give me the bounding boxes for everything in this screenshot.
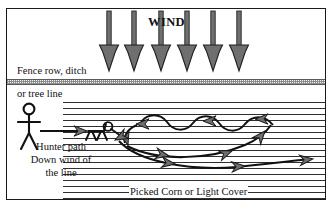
hunter-path-label-block: Hunter path Down wind of the line	[9, 141, 113, 179]
diagram-canvas: WIND Fence row, ditch or tree line Hunte…	[0, 0, 333, 209]
hunter-path-label-line2: Down wind of	[9, 154, 113, 167]
stick-figure-dog-icon	[86, 122, 121, 140]
down-arrow-icon	[100, 11, 119, 71]
diagram-frame: WIND Fence row, ditch or tree line Hunte…	[6, 8, 326, 200]
dog-loop-middle-path	[127, 125, 271, 157]
down-arrow-icon	[125, 11, 144, 71]
fence-row-label: Fence row, ditch	[17, 65, 87, 76]
cover-label: Picked Corn or Light Cover	[129, 186, 248, 197]
wind-label: WIND	[148, 16, 185, 29]
hunter-path-label-line3: the line	[9, 167, 113, 180]
down-arrow-icon	[204, 11, 223, 71]
tree-line-label: or tree line	[17, 88, 62, 99]
hunter-path-arrow	[40, 126, 87, 136]
down-arrow-icon	[230, 11, 249, 71]
hunter-path-label-line1: Hunter path	[9, 141, 113, 154]
